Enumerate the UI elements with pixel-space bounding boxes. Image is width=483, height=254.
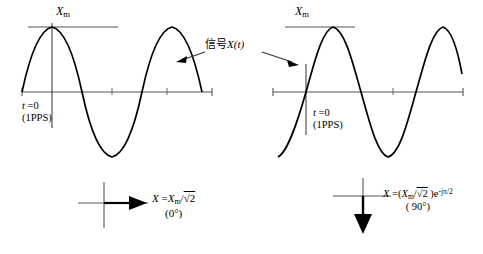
left-time-zero-line1: t =0 <box>22 100 52 112</box>
right-waveform-group <box>273 27 463 157</box>
right-time-zero-line1: t =0 <box>313 107 343 119</box>
right-amplitude-label: Xm <box>295 5 309 20</box>
left-formula-eq: = <box>159 192 168 204</box>
left-amplitude-sub: m <box>63 9 70 19</box>
left-formula-angle: (0°) <box>152 207 195 219</box>
right-formula-close: )e <box>428 188 439 199</box>
callout-arrow-right-head <box>287 60 299 67</box>
left-amplitude-label: Xm <box>56 5 70 20</box>
right-pps-label: (1PPS) <box>313 119 343 131</box>
right-formula-exponent: -jπ/2 <box>439 187 453 196</box>
right-phasor-arrowhead <box>354 214 372 234</box>
right-formula-expression: X =(Xm/√2 )e-jπ/2 <box>383 188 453 201</box>
left-formula-radical: √2 <box>184 192 196 204</box>
right-formula-angle: ( 90°) <box>383 201 453 213</box>
right-formula-eq: =( <box>389 188 401 199</box>
phasor-timing-figure: Xm t =0 (1PPS) 信号X(t) Xm t =0 (1PPS) X =… <box>0 0 483 254</box>
left-phasor-diagram <box>78 182 148 228</box>
left-waveform-group <box>22 23 212 157</box>
callout-arrow-left-head <box>176 56 187 63</box>
right-formula: X =(Xm/√2 )e-jπ/2 ( 90°) <box>383 188 453 213</box>
right-time-rest: =0 <box>316 107 330 118</box>
right-time-zero-label: t =0 (1PPS) <box>313 107 343 131</box>
signal-callout-arg: (t) <box>234 38 244 50</box>
left-time-rest: =0 <box>25 100 39 111</box>
left-time-zero-label: t =0 (1PPS) <box>22 100 52 124</box>
signal-callout-cjk: 信号 <box>205 38 227 51</box>
left-phasor-arrowhead <box>129 196 147 210</box>
signal-callout-label: 信号X(t) <box>205 38 244 51</box>
signal-callout-var: X <box>227 38 234 50</box>
left-formula: X =Xm/√2 (0°) <box>152 192 195 219</box>
right-amplitude-sub: m <box>302 9 309 19</box>
left-pps-label: (1PPS) <box>22 112 52 124</box>
right-formula-radical: √2 <box>417 188 428 199</box>
left-formula-expression: X =Xm/√2 <box>152 192 195 207</box>
left-formula-lhs: X <box>152 192 159 204</box>
